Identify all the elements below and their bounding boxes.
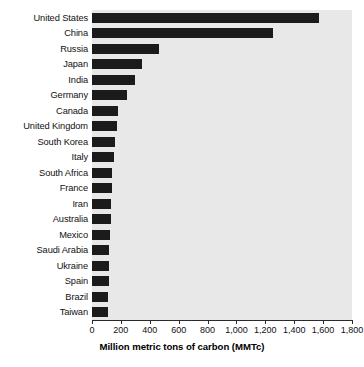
bar-row <box>92 41 352 57</box>
bar-row <box>92 165 352 181</box>
bar-row <box>92 243 352 259</box>
bar-row <box>92 57 352 73</box>
category-label: Italy <box>71 152 88 162</box>
bar <box>92 90 127 100</box>
tick-mark <box>121 320 122 324</box>
bar-row <box>92 103 352 119</box>
bar <box>92 199 111 209</box>
category-label: China <box>64 28 88 38</box>
tick-mark <box>323 320 324 324</box>
tick-mark <box>208 320 209 324</box>
tick-label: 1,400 <box>283 325 306 336</box>
category-label: Saudi Arabia <box>36 245 88 255</box>
bar-row <box>92 181 352 197</box>
bar <box>92 28 273 38</box>
bar <box>92 214 111 224</box>
tick-label: 600 <box>171 325 186 336</box>
category-label: Brazil <box>65 292 88 302</box>
bar-row <box>92 289 352 305</box>
tick-label: 400 <box>142 325 157 336</box>
category-label: Mexico <box>59 230 88 240</box>
bar <box>92 44 159 54</box>
tick-label: 1,000 <box>225 325 248 336</box>
bar-row <box>92 196 352 212</box>
bar-row <box>92 305 352 321</box>
tick-label: 800 <box>200 325 215 336</box>
category-label: Spain <box>65 276 88 286</box>
bar-row <box>92 212 352 228</box>
bar <box>92 75 135 85</box>
tick-label: 200 <box>113 325 128 336</box>
tick-mark <box>294 320 295 324</box>
bar <box>92 152 114 162</box>
bar-row <box>92 150 352 166</box>
category-label: Iran <box>72 199 88 209</box>
tick-label: 0 <box>89 325 94 336</box>
bar <box>92 307 108 317</box>
bar-row <box>92 119 352 135</box>
bar <box>92 121 117 131</box>
bar <box>92 59 142 69</box>
bar <box>92 292 108 302</box>
bar <box>92 230 110 240</box>
category-label: United Kingdom <box>23 121 88 131</box>
tick-label: 1,800 <box>341 325 364 336</box>
bar-row <box>92 227 352 243</box>
bar <box>92 183 112 193</box>
category-label: France <box>60 183 88 193</box>
category-label: Taiwan <box>60 307 88 317</box>
category-label: Japan <box>63 59 88 69</box>
category-label: Russia <box>60 44 88 54</box>
tick-mark <box>265 320 266 324</box>
bar <box>92 261 109 271</box>
tick-mark <box>236 320 237 324</box>
bar-row <box>92 258 352 274</box>
category-label: India <box>68 75 88 85</box>
category-label: South Africa <box>39 168 88 178</box>
tick-mark <box>92 320 93 324</box>
tick-mark <box>179 320 180 324</box>
bar <box>92 245 109 255</box>
bar-row <box>92 134 352 150</box>
bar <box>92 106 118 116</box>
tick-mark <box>150 320 151 324</box>
bar-row <box>92 274 352 290</box>
bar <box>92 13 319 23</box>
category-label: United States <box>33 13 88 23</box>
category-label: Ukraine <box>57 261 88 271</box>
tick-mark <box>352 320 353 324</box>
bar-row <box>92 26 352 42</box>
category-label: Canada <box>56 106 88 116</box>
bar <box>92 137 115 147</box>
tick-label: 1,200 <box>254 325 277 336</box>
x-axis-title: Million metric tons of carbon (MMTc) <box>0 341 364 352</box>
category-label: Australia <box>53 214 88 224</box>
bar-chart: United StatesChinaRussiaJapanIndiaGerman… <box>0 0 364 367</box>
category-label: Germany <box>50 90 88 100</box>
category-label: South Korea <box>37 137 88 147</box>
bar-row <box>92 10 352 26</box>
bar <box>92 168 112 178</box>
bar <box>92 276 109 286</box>
x-axis-line <box>92 320 352 321</box>
bar-row <box>92 72 352 88</box>
bar-row <box>92 88 352 104</box>
tick-label: 1,600 <box>312 325 335 336</box>
